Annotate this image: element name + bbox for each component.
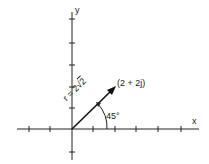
angle-label: 45° bbox=[106, 112, 120, 121]
x-axis-label: x bbox=[192, 117, 197, 126]
vector-line bbox=[72, 90, 112, 129]
complex-plane-diagram: x y (2 + 2j) 45° r = 2√2 bbox=[0, 0, 209, 164]
y-axis-label: y bbox=[75, 6, 80, 15]
diagram-canvas bbox=[0, 0, 209, 164]
point-label: (2 + 2j) bbox=[117, 79, 145, 88]
